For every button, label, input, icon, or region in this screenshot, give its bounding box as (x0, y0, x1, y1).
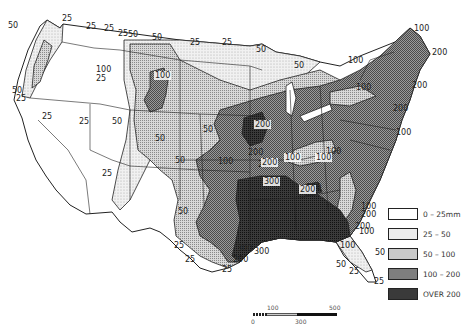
legend-swatch-100-200 (388, 268, 418, 280)
contour-label: 300 (254, 247, 269, 256)
contour-label: 100 (340, 241, 355, 250)
legend-swatch-over-200 (388, 288, 418, 300)
legend-swatch-0-25 (388, 208, 418, 220)
legend-label: 0 – 25mm (423, 210, 460, 219)
contour-label: 50 (112, 117, 122, 126)
contour-label: 50 (203, 125, 213, 134)
contour-label: 25 (96, 74, 106, 83)
contour-label: 100 (396, 128, 411, 137)
contour-label: 50 (178, 207, 188, 216)
legend-item: OVER 200 (388, 284, 464, 304)
scale-tick-100: 100 (267, 304, 278, 311)
contour-label: 300 (237, 244, 252, 253)
contour-label: 50 (152, 33, 162, 42)
legend-item: 0 – 25mm (388, 204, 464, 224)
legend-label: 100 – 200 (423, 270, 460, 279)
contour-label: 50 (8, 21, 18, 30)
scale-bar-graphic (253, 313, 337, 316)
contour-label: 25 (222, 38, 232, 47)
contour-label: 50 (256, 45, 266, 54)
contour-label: 25 (349, 267, 359, 276)
legend-item: 25 – 50 (388, 224, 464, 244)
contour-label: 50 (375, 248, 385, 257)
contour-label: 25 (42, 112, 52, 121)
contour-label: 25 (102, 169, 112, 178)
contour-label: 100 (359, 227, 374, 236)
scale-bar: 100 500 0 300 (245, 302, 345, 330)
contour-label: 25 (185, 255, 195, 264)
contour-label: 200 (432, 48, 447, 57)
scale-tick-300: 300 (295, 318, 306, 325)
contour-label: 100 (96, 65, 111, 74)
contour-label: 200 (412, 81, 427, 90)
legend: 0 – 25mm 25 – 50 50 – 100 100 – 200 OVER… (388, 204, 464, 304)
contour-label-highlight: 300 (264, 177, 279, 186)
contour-label: 25 (86, 22, 96, 31)
legend-label: 25 – 50 (423, 230, 451, 239)
contour-label-highlight: 200 (300, 185, 315, 194)
legend-item: 100 – 200 (388, 264, 464, 284)
scale-tick-0: 0 (251, 318, 255, 325)
contour-label-highlight: 100 (285, 153, 300, 162)
contour-label: 100 (348, 56, 363, 65)
legend-label: 50 – 100 (423, 250, 455, 259)
legend-swatch-50-100 (388, 248, 418, 260)
contour-label-highlight: 100 (155, 71, 170, 80)
contour-label: 50 (128, 30, 138, 39)
contour-label: 100 (414, 24, 429, 33)
contour-label: 25 (62, 14, 72, 23)
contour-label-highlight: 200 (255, 120, 270, 129)
contour-label: 25 (104, 24, 114, 33)
contour-label: 200 (393, 104, 408, 113)
contour-label: 25 (79, 117, 89, 126)
contour-label: 50 (336, 260, 346, 269)
contour-label: 50 (155, 134, 165, 143)
contour-label: 100 (218, 157, 233, 166)
contour-label: 25 (16, 94, 26, 103)
contour-label: 200 (361, 210, 376, 219)
contour-label: 200 (233, 255, 248, 264)
contour-label: 25 (118, 29, 128, 38)
contour-label-highlight: 100 (316, 153, 331, 162)
contour-label: 50 (175, 156, 185, 165)
contour-label: 100 (356, 83, 371, 92)
legend-label: OVER 200 (423, 290, 461, 299)
contour-label-highlight: 200 (262, 158, 277, 167)
contour-label: 25 (222, 265, 232, 274)
contour-label: 50 (294, 61, 304, 70)
scale-tick-500: 500 (329, 304, 340, 311)
legend-item: 50 – 100 (388, 244, 464, 264)
contour-label: 200 (248, 148, 263, 157)
contour-label: 25 (174, 241, 184, 250)
contour-label: 25 (190, 38, 200, 47)
contour-label: 25 (374, 277, 384, 286)
legend-swatch-25-50 (388, 228, 418, 240)
